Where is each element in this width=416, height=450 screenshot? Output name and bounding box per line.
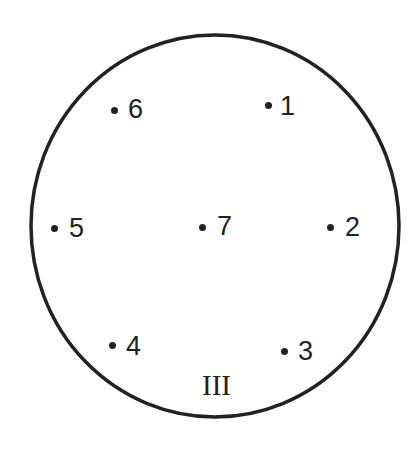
diagram-canvas: 1 2 3 4 5 6 7 III	[0, 0, 416, 450]
point-4-label: 4	[126, 333, 141, 360]
point-7-dot	[199, 224, 206, 231]
point-6-label: 6	[128, 96, 143, 123]
point-1-dot	[265, 102, 272, 109]
point-7-label: 7	[217, 213, 232, 240]
point-3-dot	[281, 348, 288, 355]
point-2-label: 2	[345, 214, 360, 241]
point-5-dot	[51, 225, 58, 232]
point-2-dot	[327, 224, 334, 231]
point-1-label: 1	[280, 93, 295, 120]
panel-label: III	[202, 371, 231, 400]
point-6-dot	[111, 107, 118, 114]
point-4-dot	[109, 342, 116, 349]
point-5-label: 5	[69, 215, 84, 242]
point-3-label: 3	[298, 338, 313, 365]
